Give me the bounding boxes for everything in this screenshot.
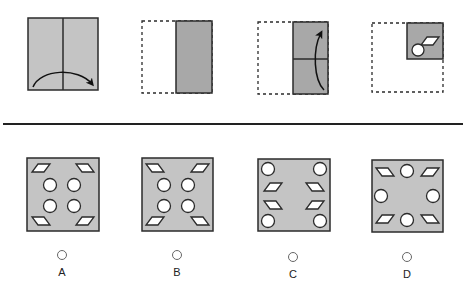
- circle-hole-icon: [314, 163, 327, 176]
- option-d-figure: [372, 160, 443, 232]
- circle-hole-icon: [68, 179, 81, 192]
- circle-hole-icon: [44, 179, 57, 192]
- step-4-punched-quarter: [372, 23, 443, 92]
- choice-b[interactable]: B: [162, 250, 192, 278]
- circle-hole-icon: [44, 200, 57, 213]
- circle-hole-icon: [158, 179, 171, 192]
- option-a-figure: [27, 158, 99, 231]
- circle-hole-icon: [427, 190, 440, 203]
- circle-hole-icon: [182, 179, 195, 192]
- radio-c[interactable]: [288, 252, 298, 262]
- radio-d[interactable]: [402, 252, 412, 262]
- step-2-folded-half: [142, 21, 212, 93]
- step-1-unfolded-paper: [28, 18, 98, 90]
- choice-d-label: D: [392, 269, 422, 280]
- circle-hole-icon: [68, 200, 81, 213]
- puzzle-canvas: [0, 0, 476, 288]
- circle-hole-icon: [262, 163, 275, 176]
- step-3-fold-up: [258, 22, 328, 94]
- choice-b-label: B: [162, 267, 192, 278]
- circle-hole-icon: [375, 190, 388, 203]
- circle-hole-icon: [412, 44, 424, 56]
- circle-hole-icon: [401, 214, 414, 227]
- circle-hole-icon: [158, 200, 171, 213]
- choice-c-label: C: [278, 269, 308, 280]
- choice-a[interactable]: A: [47, 250, 77, 278]
- circle-hole-icon: [262, 215, 275, 228]
- choice-c[interactable]: C: [278, 252, 308, 280]
- choice-d[interactable]: D: [392, 252, 422, 280]
- option-c-figure: [258, 159, 330, 231]
- option-b-figure: [142, 158, 213, 231]
- circle-hole-icon: [314, 215, 327, 228]
- radio-a[interactable]: [57, 250, 67, 260]
- choice-a-label: A: [47, 267, 77, 278]
- circle-hole-icon: [182, 200, 195, 213]
- radio-b[interactable]: [172, 250, 182, 260]
- circle-hole-icon: [401, 165, 414, 178]
